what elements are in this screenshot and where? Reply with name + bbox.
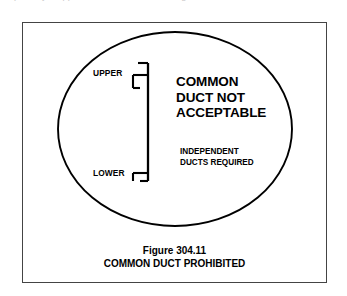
secondary-message: INDEPENDENT DUCTS REQUIRED — [180, 147, 290, 168]
primary-message-line-2: DUCT NOT — [176, 90, 294, 106]
caption-figure-number: Figure 304.11 — [23, 245, 326, 258]
label-upper: UPPER — [93, 68, 122, 78]
caption-title: COMMON DUCT PROHIBITED — [23, 258, 326, 271]
secondary-message-line-2: DUCTS REQUIRED — [180, 158, 290, 169]
primary-message-line-1: COMMON — [176, 74, 294, 90]
figure-caption: Figure 304.11 COMMON DUCT PROHIBITED — [23, 245, 326, 270]
secondary-message-line-1: INDEPENDENT — [180, 147, 290, 158]
label-lower: LOWER — [93, 168, 125, 178]
oval-outline — [58, 32, 292, 226]
primary-message-line-3: ACCEPTABLE — [176, 105, 294, 121]
primary-message: COMMON DUCT NOT ACCEPTABLE — [176, 74, 294, 121]
